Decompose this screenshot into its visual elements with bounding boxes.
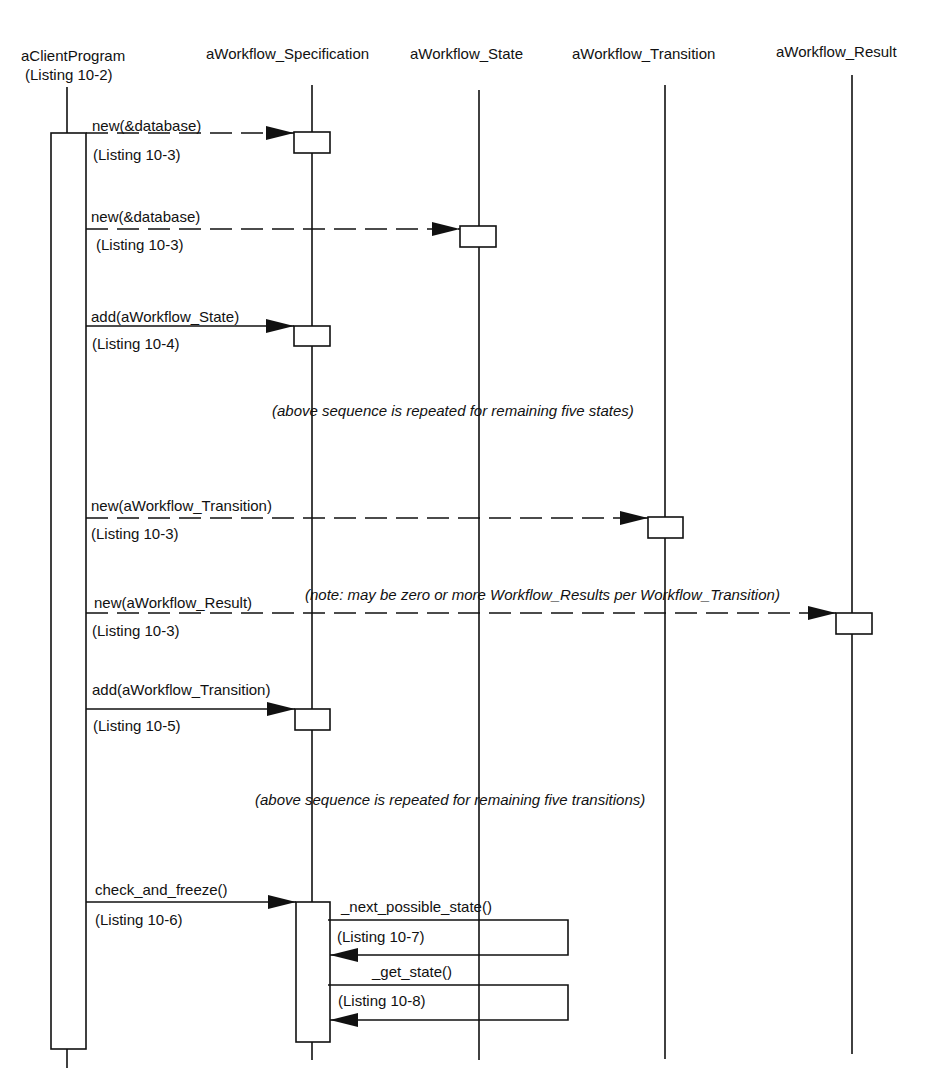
lifeline-subtitle-client: (Listing 10-2): [25, 66, 113, 83]
activation-transition: [648, 517, 683, 538]
message-ref-m7: (Listing 10-6): [95, 911, 183, 928]
lifeline-header-client: aClientProgram: [21, 47, 125, 64]
activation-spec-2: [294, 326, 330, 346]
lifeline-header-state: aWorkflow_State: [410, 45, 523, 62]
lifeline-header-transition: aWorkflow_Transition: [572, 45, 715, 62]
sequence-diagram: aClientProgram (Listing 10-2) aWorkflow_…: [0, 0, 941, 1087]
activation-spec-3: [295, 709, 330, 730]
message-label-m6: add(aWorkflow_Transition): [92, 681, 270, 698]
lifeline-header-spec: aWorkflow_Specification: [206, 45, 369, 62]
message-label-m9: _get_state(): [372, 963, 452, 980]
activation-client: [51, 133, 86, 1049]
message-label-m8: _next_possible_state(): [341, 898, 492, 915]
note-repeat-transitions: (above sequence is repeated for remainin…: [255, 791, 645, 808]
message-ref-m5: (Listing 10-3): [92, 622, 180, 639]
message-ref-m3: (Listing 10-4): [92, 335, 180, 352]
note-repeat-states: (above sequence is repeated for remainin…: [272, 402, 634, 419]
message-label-m3: add(aWorkflow_State): [91, 308, 239, 325]
message-label-m5: new(aWorkflow_Result): [94, 594, 252, 611]
message-label-m7: check_and_freeze(): [95, 881, 228, 898]
message-ref-m2: (Listing 10-3): [96, 236, 184, 253]
activation-state: [460, 226, 496, 247]
message-ref-m6: (Listing 10-5): [93, 717, 181, 734]
activation-result: [836, 613, 872, 634]
lifeline-header-result: aWorkflow_Result: [776, 43, 897, 60]
activation-spec-4: [296, 902, 330, 1042]
message-ref-m4: (Listing 10-3): [91, 525, 179, 542]
message-ref-m1: (Listing 10-3): [93, 146, 181, 163]
activation-spec-1: [294, 132, 330, 153]
message-label-m4: new(aWorkflow_Transition): [91, 497, 272, 514]
message-ref-m8: (Listing 10-7): [337, 928, 425, 945]
message-ref-m9: (Listing 10-8): [338, 992, 426, 1009]
message-label-m1: new(&database): [92, 117, 201, 134]
message-label-m2: new(&database): [91, 208, 200, 225]
note-zero-or-more-results: (note: may be zero or more Workflow_Resu…: [305, 586, 780, 603]
